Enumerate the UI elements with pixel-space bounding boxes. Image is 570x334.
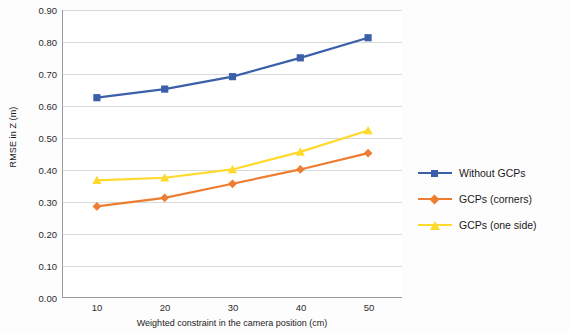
x-axis-title: Weighted constraint in the camera positi… bbox=[62, 318, 402, 328]
data-point-marker bbox=[93, 94, 100, 101]
y-axis-tick-label: 0.70 bbox=[39, 69, 58, 80]
x-axis-tick-label: 10 bbox=[92, 302, 103, 313]
chart-legend: Without GCPs GCPs (corners) GCPs (one si… bbox=[418, 160, 564, 238]
chart-container: 0.000.100.200.300.400.500.600.700.800.90… bbox=[0, 0, 570, 334]
x-axis-tick-label: 50 bbox=[364, 302, 375, 313]
legend-marker bbox=[431, 170, 438, 177]
x-axis-tick-label: 40 bbox=[296, 302, 307, 313]
data-point-marker bbox=[365, 34, 372, 41]
y-axis-tick-label: 0.10 bbox=[39, 261, 58, 272]
y-axis-tick-label: 0.80 bbox=[39, 37, 58, 48]
data-point-marker bbox=[364, 149, 373, 158]
data-point-marker bbox=[228, 179, 237, 188]
data-point-marker bbox=[160, 193, 169, 202]
y-axis-tick-label: 0.00 bbox=[39, 293, 58, 304]
y-axis-tick-label: 0.20 bbox=[39, 229, 58, 240]
series-lines bbox=[63, 10, 402, 297]
data-point-marker bbox=[161, 85, 168, 92]
y-axis-tick-label: 0.40 bbox=[39, 165, 58, 176]
series-gcps-one-side bbox=[92, 126, 372, 184]
legend-marker bbox=[430, 221, 440, 230]
y-axis-tick-label: 0.50 bbox=[39, 133, 58, 144]
legend-label: GCPs (one side) bbox=[459, 219, 537, 231]
series-line bbox=[97, 38, 368, 98]
x-axis-tick-label: 30 bbox=[228, 302, 239, 313]
legend-item-gcps-one-side[interactable]: GCPs (one side) bbox=[418, 212, 564, 238]
legend-swatch-diamond-icon bbox=[418, 193, 452, 205]
legend-swatch-triangle-icon bbox=[418, 219, 452, 231]
legend-item-without-gcps[interactable]: Without GCPs bbox=[418, 160, 564, 186]
y-axis-tick-label: 0.30 bbox=[39, 197, 58, 208]
y-axis-title: RMSE in Z (m) bbox=[8, 67, 18, 207]
legend-item-gcps-corners[interactable]: GCPs (corners) bbox=[418, 186, 564, 212]
y-axis-tick-label: 0.90 bbox=[39, 5, 58, 16]
series-without-gcps bbox=[93, 34, 371, 101]
data-point-marker bbox=[296, 165, 305, 174]
y-axis-tick-label: 0.60 bbox=[39, 101, 58, 112]
x-axis-tick-label: 20 bbox=[160, 302, 171, 313]
legend-label: Without GCPs bbox=[459, 167, 526, 179]
legend-label: GCPs (corners) bbox=[459, 193, 532, 205]
legend-marker bbox=[430, 195, 440, 205]
plot-area: 0.000.100.200.300.400.500.600.700.800.90… bbox=[62, 10, 402, 298]
data-point-marker bbox=[229, 73, 236, 80]
legend-swatch-square-icon bbox=[418, 167, 452, 179]
data-point-marker bbox=[364, 126, 373, 134]
data-point-marker bbox=[93, 202, 102, 211]
data-point-marker bbox=[297, 54, 304, 61]
